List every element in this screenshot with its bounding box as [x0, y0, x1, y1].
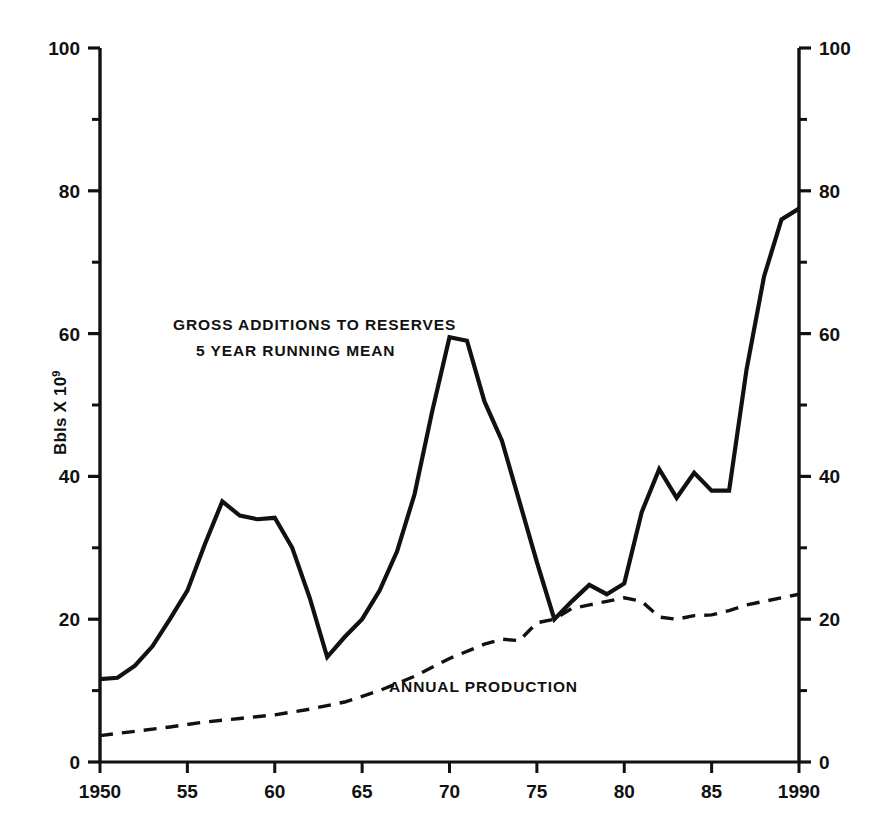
y-tick-label-right-60: 60: [819, 324, 840, 345]
y-tick-label-right-40: 40: [819, 466, 840, 487]
series-label-gross-additions-line2: 5 YEAR RUNNING MEAN: [196, 342, 395, 359]
y-tick-label-right-0: 0: [819, 752, 830, 773]
chart-figure: 0020204040606080801001001950556065707580…: [0, 0, 879, 836]
svg-text:Bbls X 109: Bbls X 109: [50, 370, 70, 455]
series-label-annual-production-text: ANNUAL PRODUCTION: [389, 678, 578, 695]
y-tick-label-left-40: 40: [59, 466, 80, 487]
x-tick-label-1955: 55: [177, 781, 199, 802]
y-tick-label-left-100: 100: [48, 38, 80, 59]
y-axis-title-superscript: 9: [50, 370, 62, 376]
x-tick-label-1950: 1950: [79, 781, 121, 802]
y-axis-title: Bbls X 109: [50, 370, 70, 455]
x-tick-label-1985: 85: [701, 781, 723, 802]
x-tick-label-1975: 75: [526, 781, 548, 802]
x-tick-label-1960: 60: [264, 781, 285, 802]
y-tick-label-left-20: 20: [59, 609, 80, 630]
x-tick-label-1965: 65: [352, 781, 374, 802]
y-axis-title-text: Bbls X 10: [51, 377, 70, 455]
y-tick-label-left-0: 0: [69, 752, 80, 773]
x-tick-label-1980: 80: [614, 781, 635, 802]
x-tick-label-1970: 70: [439, 781, 460, 802]
y-tick-label-left-60: 60: [59, 324, 80, 345]
chart-background: [0, 0, 879, 836]
x-tick-label-1990: 1990: [778, 781, 820, 802]
y-tick-label-right-100: 100: [819, 38, 851, 59]
gross-additions-to-reserves-line-chart: 0020204040606080801001001950556065707580…: [0, 0, 879, 836]
y-tick-label-left-80: 80: [59, 181, 80, 202]
series-label-gross-additions-line1: GROSS ADDITIONS TO RESERVES: [173, 316, 456, 333]
series-label-annual-production: ANNUAL PRODUCTION: [389, 678, 578, 695]
y-tick-label-right-80: 80: [819, 181, 840, 202]
y-tick-label-right-20: 20: [819, 609, 840, 630]
